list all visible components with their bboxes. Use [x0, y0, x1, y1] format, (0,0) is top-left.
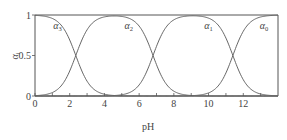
series-label-subscript: 0	[265, 25, 268, 32]
x-tick-label: 8	[171, 98, 176, 109]
y-axis-label-subscript: i	[14, 52, 21, 54]
x-axis-ticks: 024681012	[33, 93, 261, 109]
curve-alpha0	[35, 15, 278, 96]
x-axis-label: pH	[142, 121, 154, 132]
x-tick-label: 4	[102, 98, 107, 109]
curve-alpha1	[35, 16, 278, 96]
series-label-subscript: 3	[59, 25, 62, 32]
series-curves	[35, 15, 278, 96]
y-axis-ticks: 00.51	[19, 10, 36, 102]
curve-alpha2	[35, 16, 278, 96]
series-labels: α3α2α1α0	[53, 20, 268, 32]
y-axis-label: αi	[9, 52, 21, 59]
x-tick-label: 2	[67, 98, 72, 109]
curve-alpha3	[35, 15, 278, 96]
series-label-alpha0: α0	[260, 20, 269, 32]
y-tick-label: 0.5	[19, 50, 32, 61]
x-tick-label: 0	[33, 98, 38, 109]
series-label-subscript: 1	[210, 25, 213, 32]
series-label-alpha3: α3	[53, 20, 62, 32]
series-label-subscript: 2	[130, 25, 133, 32]
plot-frame	[35, 15, 278, 96]
x-tick-label: 12	[238, 98, 248, 109]
distribution-chart: 024681012 00.51 α3α2α1α0 pH αi	[0, 0, 287, 140]
y-tick-label: 1	[26, 10, 31, 21]
series-label-alpha1: α1	[204, 20, 213, 32]
x-tick-label: 6	[137, 98, 142, 109]
series-label-alpha2: α2	[124, 20, 133, 32]
x-tick-label: 10	[204, 98, 214, 109]
y-tick-label: 0	[26, 91, 31, 102]
